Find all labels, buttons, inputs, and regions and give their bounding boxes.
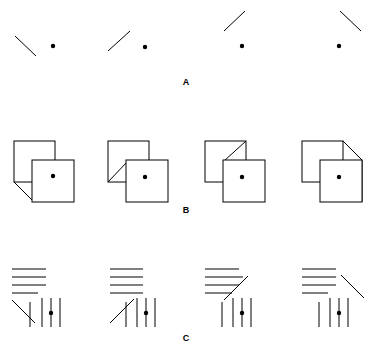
figure-item-a3	[224, 11, 245, 48]
reference-dot	[337, 175, 341, 179]
figure-item-c2	[110, 269, 155, 327]
oblique-line	[110, 299, 134, 323]
panel-b: B	[14, 141, 362, 215]
panel-label-c: C	[183, 333, 190, 343]
oblique-line	[224, 11, 245, 31]
figure-container: ABC	[0, 0, 371, 357]
reference-dot	[337, 44, 341, 48]
oblique-line	[340, 11, 361, 31]
front-square	[223, 160, 265, 202]
figure-item-a4	[337, 11, 361, 48]
oblique-line	[15, 36, 36, 56]
oblique-line	[12, 300, 35, 323]
figure-item-b1	[14, 141, 74, 202]
reference-dot	[240, 44, 244, 48]
panel-c: C	[12, 269, 364, 343]
figure-item-b2	[108, 141, 168, 202]
oblique-line	[224, 276, 248, 300]
front-square	[126, 160, 168, 202]
figure-item-c1	[12, 269, 60, 327]
reference-dot	[51, 174, 55, 178]
reference-dot	[144, 311, 148, 315]
oblique-line	[341, 275, 364, 298]
reference-dot	[143, 175, 147, 179]
oblique-line	[108, 31, 130, 51]
front-square	[32, 160, 74, 202]
reference-dot	[51, 44, 55, 48]
reference-dot	[49, 311, 53, 315]
panel-label-b: B	[183, 205, 190, 215]
panel-a: A	[15, 11, 361, 87]
corner-diagonal	[343, 141, 362, 160]
reference-dot	[143, 45, 147, 49]
figure-item-a2	[108, 31, 147, 51]
reference-dot	[337, 311, 341, 315]
figure-item-b3	[205, 141, 265, 202]
reference-dot	[240, 175, 244, 179]
front-square	[320, 160, 362, 202]
figure-item-a1	[15, 36, 55, 56]
figure-item-c3	[205, 269, 251, 327]
figure-item-b4	[302, 141, 362, 202]
panel-label-a: A	[183, 77, 190, 87]
figure-canvas: ABC	[0, 0, 371, 357]
reference-dot	[240, 311, 244, 315]
corner-diagonal	[14, 182, 33, 201]
figure-item-c4	[302, 269, 364, 327]
